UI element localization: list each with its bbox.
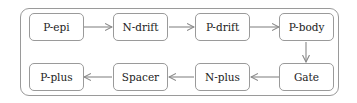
node-label: P-plus (40, 71, 72, 83)
node-p-epi: P-epi (29, 13, 84, 41)
node-spacer: Spacer (113, 63, 168, 91)
node-gate: Gate (279, 63, 334, 91)
node-label: N-drift (123, 21, 159, 33)
node-label: P-epi (43, 21, 69, 33)
node-n-plus: N-plus (195, 63, 250, 91)
node-label: N-plus (205, 71, 240, 83)
node-label: Spacer (122, 71, 159, 83)
node-n-drift: N-drift (113, 13, 168, 41)
node-label: P-body (289, 21, 325, 33)
node-p-drift: P-drift (195, 13, 250, 41)
node-p-body: P-body (279, 13, 334, 41)
node-p-plus: P-plus (29, 63, 84, 91)
node-label: P-drift (206, 21, 239, 33)
node-label: Gate (294, 71, 319, 83)
